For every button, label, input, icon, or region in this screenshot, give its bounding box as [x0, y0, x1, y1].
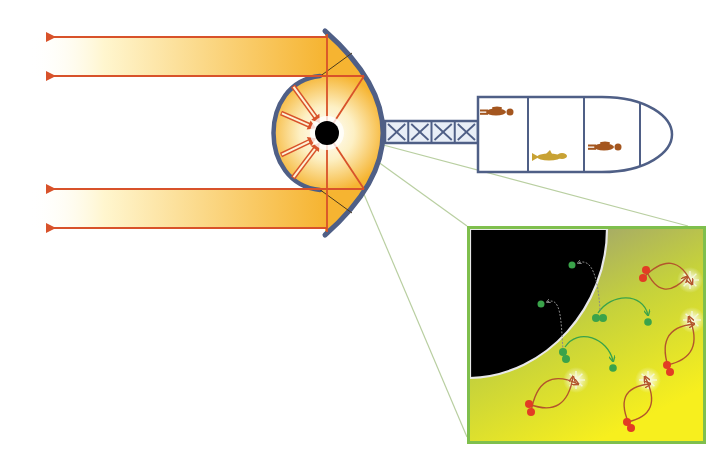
connecting-truss [385, 121, 478, 143]
person-arm [492, 107, 502, 110]
person-body [486, 109, 506, 116]
particle [599, 314, 607, 322]
hawking-radiation-inset [467, 226, 706, 444]
person-head [507, 109, 514, 116]
escaped-particle [644, 318, 652, 326]
person-head [615, 144, 622, 151]
particle [663, 361, 671, 369]
person-leg-b [480, 113, 488, 115]
person-arm [600, 142, 610, 145]
capsule-hull [478, 97, 672, 172]
particle [559, 348, 567, 356]
starship-diagram [0, 0, 727, 464]
particle [639, 274, 647, 282]
particle [592, 314, 600, 322]
black-hole-icon [310, 116, 344, 150]
particle [666, 368, 674, 376]
escaped-particle [609, 364, 617, 372]
animal-head [557, 153, 567, 159]
black-hole [315, 121, 339, 145]
person-leg-a [588, 145, 596, 147]
crew-capsule [478, 97, 672, 172]
person-body [594, 144, 614, 151]
particle [562, 355, 570, 363]
captured-particle [569, 262, 576, 269]
beam-band-1 [30, 189, 325, 228]
beam-band-0 [30, 37, 325, 76]
particle [527, 408, 535, 416]
person-leg-b [588, 148, 596, 150]
diagram-canvas: Hawking radiation at the event horizon [0, 0, 727, 464]
particle [642, 266, 650, 274]
particle [627, 424, 635, 432]
captured-particle [538, 301, 545, 308]
particle [525, 400, 533, 408]
person-leg-a [480, 110, 488, 112]
